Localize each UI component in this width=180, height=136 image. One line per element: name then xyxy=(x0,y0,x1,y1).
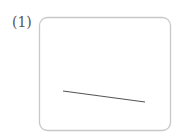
diagram-figure xyxy=(0,0,180,136)
line-segment xyxy=(63,91,145,102)
frame-box xyxy=(40,18,171,131)
